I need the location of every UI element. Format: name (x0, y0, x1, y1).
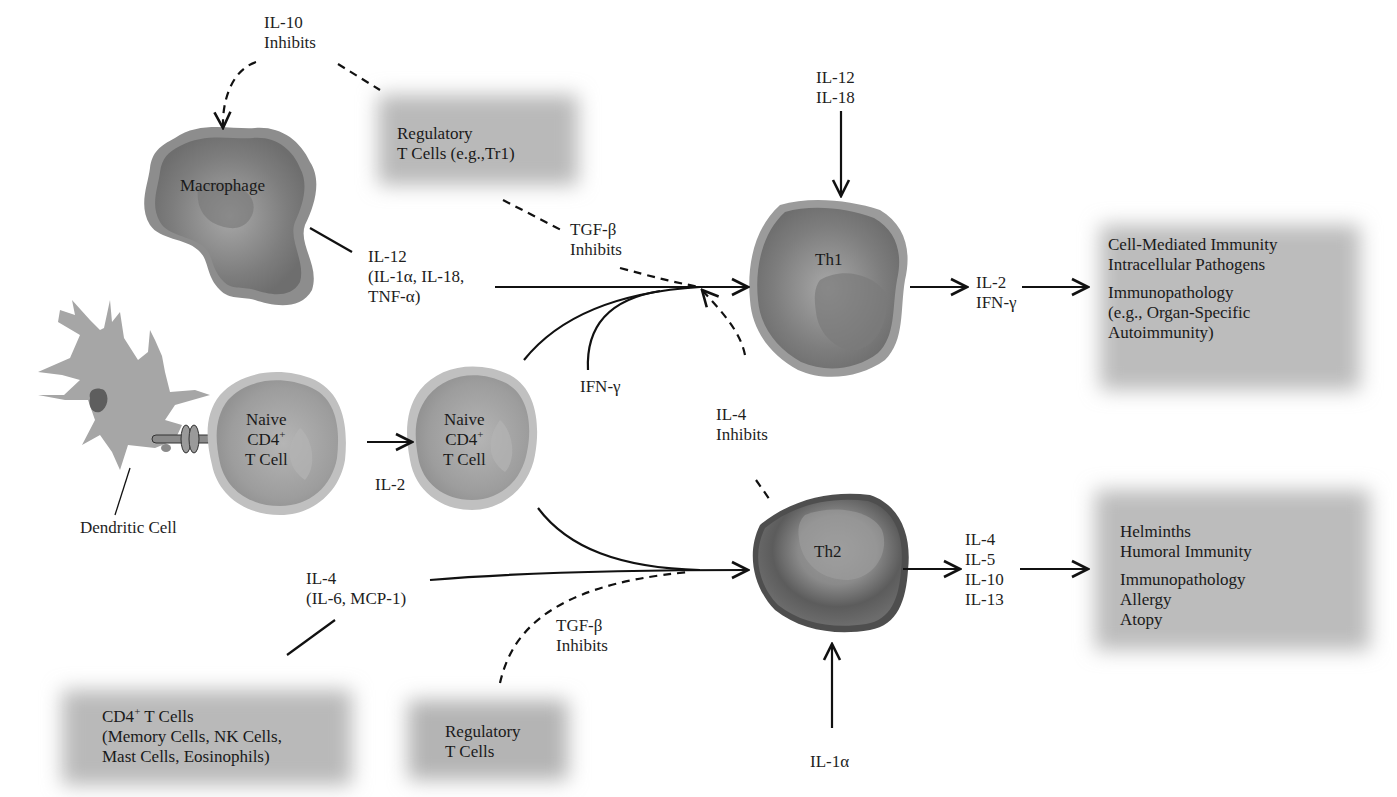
naive-cd4-t-cell-2-label: NaiveCD4+T Cell (443, 410, 486, 470)
dendritic-cell-label: Dendritic Cell (80, 518, 177, 538)
th2-outcomes-text: HelminthsHumoral ImmunityImmunopathology… (1120, 522, 1252, 630)
treg-bottom-text: RegulatoryT Cells (445, 722, 521, 762)
diagram-canvas (0, 0, 1397, 797)
th2-cytokines-label: IL-4IL-5IL-10IL-13 (965, 530, 1004, 610)
treg-top-text: RegulatoryT Cells (e.g.,Tr1) (397, 124, 515, 164)
il2-ifng-label: IL-2IFN-γ (976, 273, 1017, 313)
macrophage-label: Macrophage (180, 176, 265, 196)
il10-inhibits-label: IL-10Inhibits (264, 13, 316, 53)
th1-cell (749, 200, 907, 377)
th1-label: Th1 (815, 250, 842, 270)
il4-inhibits-label: IL-4Inhibits (716, 405, 768, 445)
il12-il18-label: IL-12IL-18 (816, 68, 855, 108)
tgfb-inhibits-bottom-label: TGF-βInhibits (556, 616, 608, 656)
il12-group-label: IL-12(IL-1α, IL-18,TNF-α) (368, 247, 464, 307)
il4-group-label: IL-4(IL-6, MCP-1) (306, 569, 406, 609)
th2-cell (753, 494, 909, 632)
tgfb-inhibits-top-label: TGF-βInhibits (570, 220, 622, 260)
dendritic-cell (38, 300, 212, 470)
il2-label: IL-2 (375, 475, 405, 495)
ifng-label: IFN-γ (580, 377, 621, 397)
cd4-sources-text: CD4+ T Cells(Memory Cells, NK Cells,Mast… (102, 707, 282, 767)
macrophage-cell (144, 127, 316, 305)
th2-label: Th2 (814, 542, 841, 562)
arrows (287, 111, 1088, 728)
dendritic-leader-line (115, 468, 130, 515)
il1a-label: IL-1α (810, 752, 849, 772)
naive-cd4-t-cell-1-label: NaiveCD4+T Cell (245, 410, 288, 470)
th1-outcomes-text: Cell-Mediated ImmunityIntracellular Path… (1108, 235, 1278, 343)
